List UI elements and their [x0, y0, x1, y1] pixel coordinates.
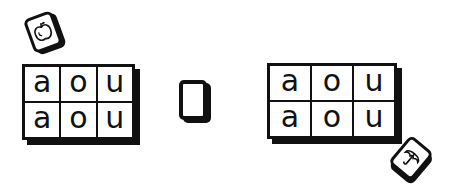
apple-icon: [30, 18, 56, 46]
grid-cell[interactable]: a: [269, 65, 311, 101]
grid-cell[interactable]: a: [24, 66, 60, 102]
grid-cell[interactable]: a: [269, 101, 311, 137]
grid-cell[interactable]: o: [311, 65, 353, 101]
blank-card[interactable]: [179, 80, 207, 120]
grid-cell[interactable]: o: [311, 101, 353, 137]
grid-cell[interactable]: u: [97, 66, 133, 102]
letter-grid-left: a o u a o u: [22, 64, 135, 140]
grid-cell[interactable]: u: [353, 65, 395, 101]
umbrella-picture-card[interactable]: [388, 135, 434, 182]
grid-cell[interactable]: u: [353, 101, 395, 137]
grid-cell[interactable]: o: [60, 102, 96, 138]
grid-cell[interactable]: a: [24, 102, 60, 138]
umbrella-icon: [396, 143, 425, 173]
apple-picture-card[interactable]: [23, 10, 64, 54]
grid-cell[interactable]: u: [97, 102, 133, 138]
letter-grid-right: a o u a o u: [267, 63, 397, 139]
grid-cell[interactable]: o: [60, 66, 96, 102]
